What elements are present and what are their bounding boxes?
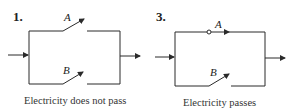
diagram-3-circuit [155,30,285,86]
diagram-1-circuit [8,19,140,84]
diagram-1-caption: Electricity does not pass [24,95,126,106]
diagram-3-number: 3. [156,9,166,25]
diagram-3-caption: Electricity passes [183,97,256,108]
diagram-3-switch-a-label: A [215,18,222,30]
diagram-1-switch-a-label: A [64,11,71,23]
diagram-3-switch-b-label: B [210,66,217,78]
switch-a-pivot-icon [207,30,211,34]
diagram-1-switch-b-label: B [63,64,70,76]
diagram-1-number: 1. [13,9,23,25]
